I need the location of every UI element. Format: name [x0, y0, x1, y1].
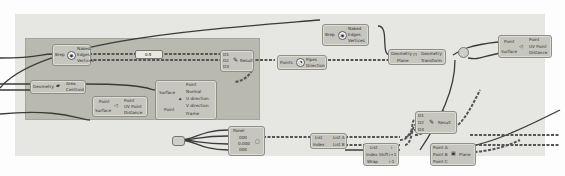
area-icon: ▰: [56, 83, 60, 88]
output-label: Vertices: [77, 58, 94, 63]
output-label: List B: [333, 142, 345, 147]
dispatch-node[interactable]: D1 D2 D3 ✎ Result: [220, 50, 254, 72]
input-label: Point A: [433, 145, 448, 150]
input-label: Point B: [433, 152, 448, 157]
surface-closest-point-node[interactable]: Point Surface ◁ Point UV Point Distance: [92, 96, 148, 117]
input-label: Point: [504, 39, 514, 44]
output-label: U direction: [186, 96, 209, 101]
closest-point-node[interactable]: Point Surface ◁ Point UV Point Distance: [498, 35, 552, 58]
input-label: Point: [164, 107, 174, 112]
evaluate-icon: ✦: [178, 97, 182, 102]
output-label: Centroid: [66, 87, 84, 92]
panel-icon: ▢: [255, 139, 260, 144]
edges-icon: ◉: [338, 31, 347, 40]
number-slider[interactable]: 0.5: [135, 50, 163, 59]
output-label: Point: [186, 82, 196, 87]
closest-point-icon: ◁: [114, 103, 118, 108]
input-label: List: [370, 145, 377, 150]
merge-node[interactable]: D1 D2 D3 ✎ Result: [415, 111, 457, 134]
plane-icon: ▣: [451, 151, 456, 156]
grasshopper-canvas[interactable]: Brep ◉ Naked Edges Vertices 0.5 D1 D2 D3…: [0, 0, 565, 176]
input-label: D3: [223, 64, 229, 69]
output-label: UV Point: [124, 104, 142, 109]
input-label: D3: [418, 127, 424, 132]
input-label: D1: [418, 113, 424, 118]
direction-icon: ◔: [296, 58, 305, 67]
output-label: i: [391, 145, 392, 150]
output-label: Result: [240, 58, 253, 63]
panel-row: 000: [239, 135, 247, 140]
panel-node[interactable]: Panel 000 0.000 000 ▢: [228, 126, 265, 156]
brep-edges-node-2[interactable]: Brep ◉ Naked Edges Vertices: [322, 24, 369, 46]
input-label: Index: [313, 142, 325, 147]
output-label: Area: [66, 81, 76, 86]
output-label: UV Point: [529, 44, 547, 49]
input-label: D1: [223, 52, 229, 57]
output-label: Naked: [348, 26, 361, 31]
output-label: i+1: [389, 152, 396, 157]
input-label: Brep: [325, 32, 335, 37]
output-label: Geometry: [421, 51, 442, 56]
input-label: Point: [99, 99, 109, 104]
slider-value: 0.5: [145, 51, 151, 58]
input-label: D2: [418, 120, 424, 125]
transform-icon: ⊓: [413, 52, 417, 57]
output-label: Point: [529, 37, 539, 42]
input-label: Geometry: [33, 84, 54, 89]
output-label: Naked: [77, 46, 90, 51]
shift-list-node[interactable]: List Index Shift Wrap i i+1 i-1: [363, 143, 399, 166]
input-label: Points: [280, 60, 293, 65]
input-label: Geometry: [391, 51, 412, 56]
output-label: Plane: [459, 152, 471, 157]
edges-icon: ◉: [67, 51, 76, 60]
panel-row: 0.000: [238, 141, 250, 146]
panel-header: Panel: [233, 128, 244, 133]
evaluate-surface-node[interactable]: Surface Point ✦ Point Normal U direction…: [155, 80, 217, 120]
input-label: Wrap: [367, 159, 378, 164]
closest-point-icon: ◁: [519, 44, 523, 49]
input-label: Surface: [159, 90, 175, 95]
relay-hub[interactable]: [458, 47, 469, 58]
pencil-icon: ✎: [233, 57, 238, 62]
source-param[interactable]: [172, 136, 185, 146]
output-label: Direction: [306, 63, 325, 68]
output-label: V direction: [186, 103, 209, 108]
points-direction-node[interactable]: Points ◔ Pipes Direction: [277, 55, 327, 70]
input-label: Point C: [433, 159, 448, 164]
output-label: Vertices: [348, 38, 365, 43]
panel-row: 000: [239, 147, 247, 152]
output-label: Edges: [77, 52, 90, 57]
list-item-node[interactable]: List Index List A List B: [310, 133, 347, 149]
output-label: Transform: [421, 58, 442, 63]
output-label: Normal: [186, 89, 201, 94]
input-label: Index Shift: [366, 152, 388, 157]
transform-node[interactable]: Geometry Plane ⊓ Geometry Transform: [388, 49, 446, 65]
input-label: List: [315, 135, 322, 140]
output-label: List A: [333, 135, 345, 140]
input-label: Plane: [397, 58, 409, 63]
output-label: Point: [124, 98, 134, 103]
input-label: D2: [223, 58, 229, 63]
output-label: Result: [438, 120, 451, 125]
brep-edges-node[interactable]: Brep ◉ Naked Edges Vertices: [52, 44, 91, 66]
output-label: Edges: [348, 32, 361, 37]
input-label: Brep: [55, 52, 65, 57]
input-label: Surface: [95, 108, 111, 113]
area-node[interactable]: Geometry ▰ Area Centroid: [30, 80, 86, 94]
output-label: Pipes: [306, 57, 317, 62]
pencil-icon: ✎: [429, 119, 434, 124]
output-label: Frame: [186, 111, 199, 116]
plane-3pt-node[interactable]: Point A Point B Point C ▣ Plane: [430, 143, 476, 166]
output-label: Distance: [124, 110, 142, 115]
output-label: Distance: [529, 50, 547, 55]
output-label: i-1: [389, 159, 394, 164]
input-label: Surface: [501, 49, 517, 54]
